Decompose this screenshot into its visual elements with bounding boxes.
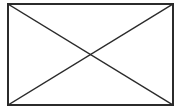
image-placeholder-canvas: [0, 0, 182, 111]
broken-image-placeholder-icon: [0, 0, 182, 111]
